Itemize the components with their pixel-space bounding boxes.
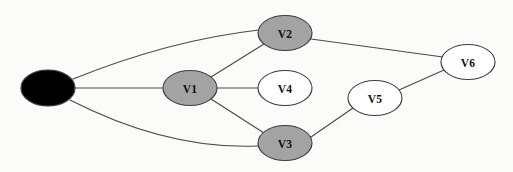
- node-label-v4: V4: [278, 83, 293, 95]
- node-label-v3: V3: [278, 138, 293, 150]
- graph-edge-v3-to-v5: [311, 108, 353, 137]
- node-label-v1: V1: [183, 83, 198, 95]
- graph-svg: V1V2V4V3V5V6: [0, 0, 513, 172]
- graph-edge-v1-to-v3: [211, 99, 264, 133]
- graph-edge-v2-to-v6: [311, 39, 443, 57]
- graph-node-v6[interactable]: V6: [441, 45, 495, 80]
- node-label-v5: V5: [368, 93, 383, 105]
- node-label-v6: V6: [461, 57, 476, 69]
- graph-edge-source-to-v2: [73, 30, 259, 79]
- graph-edge-v1-to-v2: [211, 44, 264, 77]
- node-ellipse-source[interactable]: [21, 70, 75, 106]
- graph-node-v5[interactable]: V5: [348, 81, 402, 116]
- graph-node-source[interactable]: [21, 70, 75, 106]
- graph-node-v2[interactable]: V2: [258, 16, 312, 51]
- graph-diagram-canvas: V1V2V4V3V5V6: [0, 0, 513, 172]
- graph-edge-v5-to-v6: [399, 70, 444, 90]
- graph-node-v1[interactable]: V1: [163, 71, 217, 106]
- graph-node-v3[interactable]: V3: [258, 126, 312, 161]
- graph-node-v4[interactable]: V4: [258, 71, 312, 106]
- node-label-v2: V2: [278, 28, 293, 40]
- graph-edge-source-to-v3: [70, 100, 258, 146]
